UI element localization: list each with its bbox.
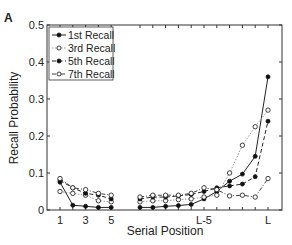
- data-point: [71, 191, 75, 195]
- data-point: [253, 175, 257, 179]
- data-point: [176, 204, 180, 208]
- data-point: [109, 205, 113, 209]
- legend-label: 5th Recall: [68, 55, 115, 67]
- data-point: [176, 193, 180, 197]
- x-tick-label: 5: [108, 214, 114, 226]
- data-point: [58, 176, 62, 180]
- data-point: [96, 191, 100, 195]
- x-axis-label: Serial Position: [127, 224, 204, 238]
- data-point: [71, 203, 75, 207]
- x-tick-label: 3: [83, 214, 89, 226]
- data-point: [266, 176, 270, 180]
- y-axis-label: Recall Probability: [7, 72, 21, 165]
- data-point: [96, 205, 100, 209]
- legend-label: 1st Recall: [68, 29, 114, 41]
- data-point: [266, 119, 270, 123]
- x-tick-label: 1: [57, 214, 63, 226]
- y-tick-label: 0: [38, 204, 44, 216]
- data-point: [240, 193, 244, 197]
- legend-label: 3rd Recall: [68, 42, 115, 54]
- series-5th-recall: [58, 119, 270, 201]
- y-tick-label: 0.4: [29, 56, 44, 68]
- data-point: [151, 193, 155, 197]
- y-tick-label: 0.1: [29, 167, 44, 179]
- legend-label: 7th Recall: [68, 68, 115, 80]
- series-1st-recall: [58, 75, 270, 210]
- series-3rd-recall: [58, 108, 270, 204]
- plot-area: [58, 75, 270, 210]
- data-point: [227, 171, 231, 175]
- data-point: [164, 204, 168, 208]
- filled-circle-marker-icon: [57, 33, 61, 37]
- recall-chart: A 00.10.20.30.40.5135L-5L 1st Recall3rd …: [0, 0, 292, 245]
- data-point: [266, 108, 270, 112]
- data-point: [138, 195, 142, 199]
- data-point: [163, 193, 167, 197]
- data-point: [109, 193, 113, 197]
- data-point: [189, 197, 193, 201]
- data-point: [253, 195, 257, 199]
- y-tick-label: 0.5: [29, 19, 44, 31]
- data-point: [83, 187, 87, 191]
- data-point: [228, 184, 232, 188]
- panel-label: A: [4, 11, 13, 25]
- open-circle-marker-icon: [57, 72, 61, 76]
- data-point: [228, 179, 232, 183]
- y-tick-label: 0.2: [29, 130, 44, 142]
- data-point: [215, 187, 219, 191]
- data-point: [240, 182, 244, 186]
- data-point: [71, 186, 75, 190]
- open-circle-marker-icon: [57, 46, 61, 50]
- data-point: [253, 154, 257, 158]
- data-point: [266, 75, 270, 79]
- data-point: [240, 143, 244, 147]
- x-tick-label: L: [265, 214, 271, 226]
- data-point: [215, 193, 219, 197]
- data-point: [138, 205, 142, 209]
- data-point: [202, 186, 206, 190]
- y-tick-label: 0.3: [29, 93, 44, 105]
- data-point: [202, 195, 206, 199]
- data-point: [151, 205, 155, 209]
- data-point: [253, 125, 257, 129]
- data-point: [96, 199, 100, 203]
- series-7th-recall: [58, 176, 270, 199]
- data-point: [58, 189, 62, 193]
- data-point: [189, 191, 193, 195]
- data-point: [189, 202, 193, 206]
- data-point: [227, 194, 231, 198]
- data-point: [84, 204, 88, 208]
- legend: 1st Recall3rd Recall5th Recall7th Recall: [49, 27, 115, 80]
- filled-circle-marker-icon: [57, 59, 61, 63]
- data-point: [240, 172, 244, 176]
